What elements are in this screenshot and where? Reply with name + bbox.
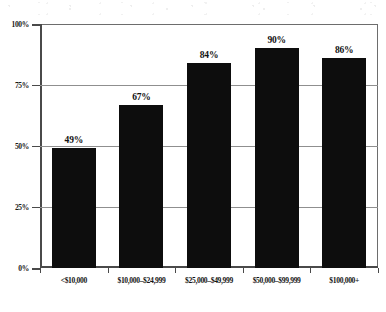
bar [52, 148, 96, 268]
bar [322, 58, 366, 268]
y-axis-tick-label: 25% [15, 203, 29, 212]
bar-slot: 67% [108, 24, 176, 268]
bar-slot: 49% [40, 24, 108, 268]
x-tick-group [40, 268, 378, 274]
bar [255, 48, 299, 268]
x-tick [310, 268, 311, 273]
bar-slot: 86% [310, 24, 378, 268]
bar [187, 63, 231, 268]
bar [119, 105, 163, 268]
x-axis-category-label: $10,000–$24,999 [117, 276, 165, 285]
y-axis-tick-label: 75% [15, 81, 29, 90]
x-axis-label-group: <$10,000$10,000–$24,999$25,000–$49,999$5… [40, 276, 378, 296]
bar-group: 49%67%84%90%86% [40, 24, 378, 268]
x-axis-category-label: $25,000–$49,999 [185, 276, 233, 285]
x-tick [378, 268, 379, 273]
y-tick [32, 268, 40, 270]
x-tick [40, 268, 41, 273]
bar-slot: 90% [243, 24, 311, 268]
x-tick [175, 268, 176, 273]
bar-value-label: 67% [132, 92, 150, 102]
bar-value-label: 49% [65, 135, 83, 145]
bar-value-label: 90% [267, 35, 285, 45]
bar-chart: 0%25%50%75%100% 49%67%84%90%86% <$10,000… [0, 0, 386, 312]
scan-noise-artifact [0, 0, 386, 18]
y-axis-tick-label: 100% [11, 20, 29, 29]
bar-slot: 84% [175, 24, 243, 268]
x-axis-category-label: <$10,000 [61, 276, 87, 285]
bar-value-label: 84% [200, 50, 218, 60]
y-axis-tick-label: 50% [15, 142, 29, 151]
x-tick [108, 268, 109, 273]
x-axis-category-label: $100,000+ [329, 276, 359, 285]
x-axis-category-label: $50,000–$99,999 [253, 276, 301, 285]
bar-value-label: 86% [335, 45, 353, 55]
y-axis-tick-label: 0% [18, 264, 29, 273]
x-tick [243, 268, 244, 273]
